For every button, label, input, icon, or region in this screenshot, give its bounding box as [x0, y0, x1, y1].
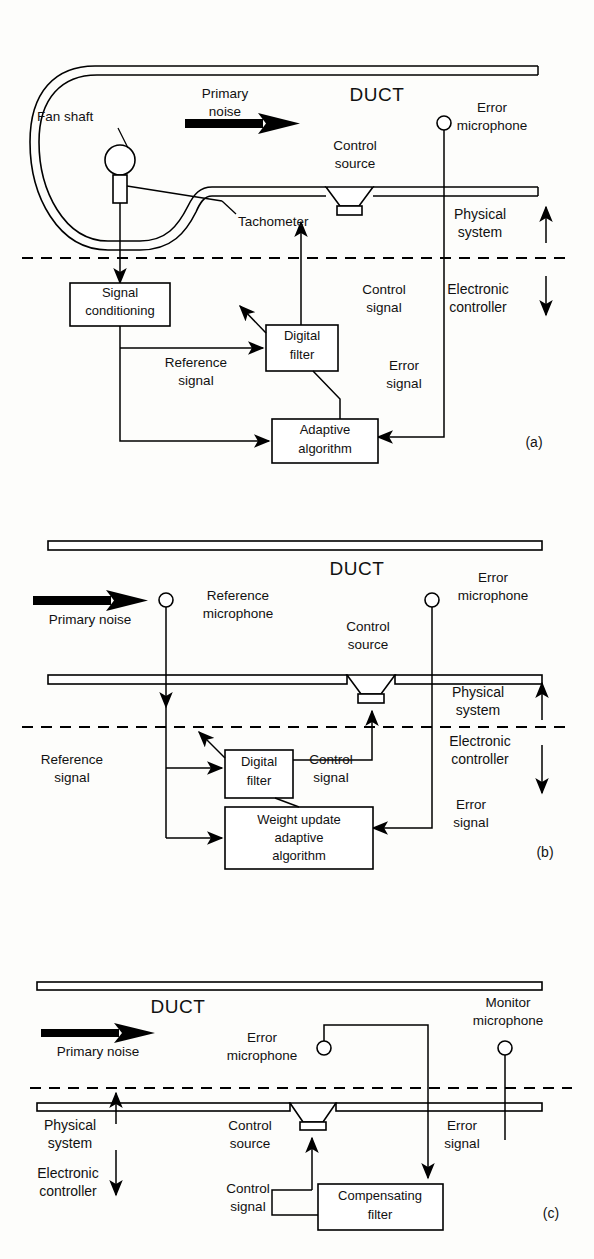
panel-tag-b: (b) — [536, 844, 553, 860]
control-signal-label-line1-a: Control — [362, 282, 406, 297]
panel-tag-c: (c) — [543, 1205, 559, 1221]
duct-lower-wall-left-b — [48, 675, 347, 684]
reference-signal-label-line2-a: signal — [178, 373, 213, 388]
primary-noise-label-c: Primary noise — [57, 1044, 140, 1059]
error-microphone-label-line1-c: Error — [247, 1030, 278, 1045]
block-compensating-filter-line1-c: Compensating — [338, 1188, 422, 1203]
physical-system-label-line1-a: Physical — [454, 206, 506, 222]
control-signal-label-line1-c: Control — [226, 1181, 270, 1196]
duct-lower-wall-right-b — [395, 675, 542, 684]
reference-signal-label-line1-b: Reference — [41, 752, 103, 767]
monitor-microphone-c — [498, 1041, 512, 1055]
duct-upper-wall-b — [48, 541, 542, 550]
error-signal-label-line2-b: signal — [453, 815, 488, 830]
panel-a: Signal conditioning Digital filter Adapt… — [0, 0, 594, 500]
block-weight-update-line2-b: adaptive — [274, 830, 323, 845]
error-mic-wire-c — [324, 1025, 428, 1107]
tachometer-leader-a — [127, 186, 222, 201]
error-signal-label-line1-a: Error — [389, 358, 420, 373]
electronic-controller-label-line2-b: controller — [451, 751, 509, 767]
error-signal-label-line2-a: signal — [386, 376, 421, 391]
control-source-label-line2-a: source — [335, 156, 376, 171]
adaptation-arrow-a — [240, 306, 266, 333]
adaptation-arrow-b — [199, 732, 225, 758]
error-signal-label-line2-c: signal — [444, 1136, 479, 1151]
error-signal-label-line1-c: Error — [447, 1118, 478, 1133]
fan-shaft-label-a: Fan shaft — [37, 109, 94, 124]
error-microphone-a — [437, 116, 451, 130]
control-source-magnet-b — [358, 694, 384, 703]
reference-signal-label-line2-b: signal — [54, 770, 89, 785]
control-source-label-line1-c: Control — [228, 1118, 272, 1133]
control-signal-label-line1-b: Control — [309, 752, 353, 767]
error-microphone-label-line1-b: Error — [478, 570, 509, 585]
primary-noise-arrow-c — [41, 1023, 155, 1043]
figure-root: Signal conditioning Digital filter Adapt… — [0, 0, 594, 1259]
physical-system-label-line2-a: system — [458, 224, 502, 240]
control-signal-label-line2-a: signal — [366, 300, 401, 315]
primary-noise-arrow-b — [33, 590, 148, 611]
electronic-controller-label-line2-a: controller — [449, 299, 507, 315]
physical-system-label-line2-b: system — [456, 702, 500, 718]
reference-signal-label-line1-a: Reference — [165, 355, 227, 370]
control-source-label-line2-b: source — [348, 637, 389, 652]
control-signal-stub-c — [272, 1190, 318, 1215]
physical-system-label-line1-b: Physical — [452, 684, 504, 700]
physical-system-label-line2-c: system — [48, 1135, 92, 1151]
control-source-cone-c — [290, 1103, 336, 1122]
block-signal-conditioning-line2-a: conditioning — [85, 303, 154, 318]
fan-shaft-rotor-a — [105, 145, 135, 175]
block-compensating-filter-line2-c: filter — [368, 1207, 393, 1222]
error-microphone-label-line2-c: microphone — [227, 1048, 298, 1063]
duct-label-c: DUCT — [151, 996, 206, 1017]
block-digital-filter-line1-b: Digital — [241, 754, 277, 769]
tachometer-label-a: Tachometer — [238, 214, 309, 229]
electronic-controller-label-line2-c: controller — [39, 1183, 97, 1199]
duct-upper-wall-c — [37, 982, 542, 990]
block-weight-update-line3-b: algorithm — [272, 848, 325, 863]
panel-tag-a: (a) — [525, 434, 542, 450]
control-source-cone-a — [326, 187, 373, 206]
duct-label-a: DUCT — [350, 84, 405, 105]
block-digital-filter-line1-a: Digital — [284, 328, 320, 343]
tachometer-leader2-a — [222, 201, 236, 214]
error-microphone-label-line1-a: Error — [477, 100, 508, 115]
reference-microphone-label-line2-b: microphone — [203, 606, 274, 621]
fan-shaft-hub-a — [113, 175, 127, 203]
primary-noise-label-line2-a: noise — [209, 104, 241, 119]
error-microphone-label-line2-b: microphone — [458, 588, 529, 603]
electronic-controller-label-line1-a: Electronic — [447, 281, 508, 297]
weight-link-b — [275, 798, 299, 807]
monitor-microphone-label-line2-c: microphone — [473, 1013, 544, 1028]
reference-microphone-b — [159, 593, 173, 607]
electronic-controller-label-line1-b: Electronic — [449, 733, 510, 749]
primary-noise-arrow-a — [185, 113, 300, 134]
duct-lower-wall-left-c — [37, 1103, 290, 1111]
control-source-magnet-a — [337, 206, 362, 215]
block-digital-filter-line2-b: filter — [247, 773, 272, 788]
control-source-magnet-c — [300, 1122, 326, 1130]
monitor-microphone-label-line1-c: Monitor — [485, 995, 531, 1010]
control-source-label-line1-b: Control — [346, 619, 390, 634]
reference-microphone-label-line1-b: Reference — [207, 588, 269, 603]
error-microphone-b — [425, 593, 439, 607]
error-microphone-label-line2-a: microphone — [457, 118, 528, 133]
weight-link-a — [313, 371, 340, 419]
electronic-controller-label-line1-c: Electronic — [37, 1165, 98, 1181]
error-signal-label-line1-b: Error — [456, 797, 487, 812]
block-digital-filter-line2-a: filter — [290, 347, 315, 362]
control-signal-label-line2-c: signal — [230, 1199, 265, 1214]
duct-label-b: DUCT — [330, 558, 385, 579]
control-signal-label-line2-b: signal — [313, 770, 348, 785]
primary-noise-label-b: Primary noise — [49, 612, 132, 627]
primary-noise-label-line1-a: Primary — [202, 86, 249, 101]
control-source-cone-b — [347, 675, 395, 694]
duct-lower-wall-right-c — [336, 1103, 542, 1111]
block-weight-update-line1-b: Weight update — [257, 812, 341, 827]
block-adaptive-algorithm-line2-a: algorithm — [298, 441, 351, 456]
block-adaptive-algorithm-line1-a: Adaptive — [300, 422, 351, 437]
physical-system-label-line1-c: Physical — [44, 1117, 96, 1133]
control-source-label-line2-c: source — [230, 1136, 271, 1151]
block-signal-conditioning-line1-a: Signal — [102, 285, 138, 300]
error-microphone-c — [317, 1041, 331, 1055]
